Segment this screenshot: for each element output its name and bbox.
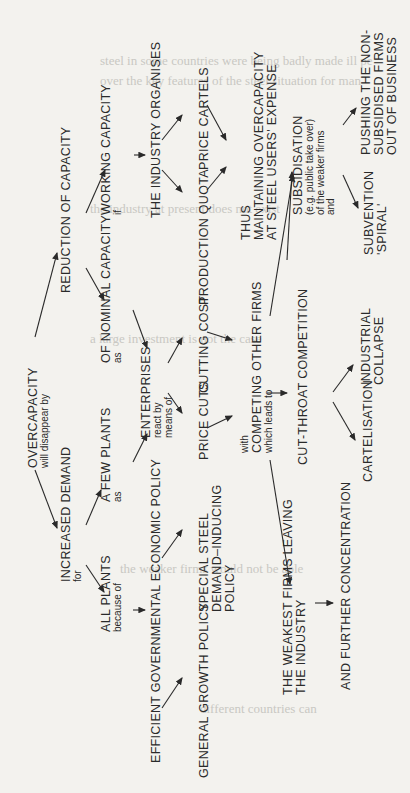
arrow-icon [207, 105, 226, 140]
arrow-icon [168, 338, 182, 363]
arrow-icon [35, 470, 57, 528]
arrow-icon [168, 393, 182, 413]
diagram-page: steel in some countries were being badly… [0, 0, 410, 793]
arrow-icon [86, 268, 104, 300]
arrow-icon [162, 115, 182, 140]
arrow-icon [133, 310, 147, 348]
arrow-icon [270, 175, 293, 316]
arrow-icon [86, 170, 105, 213]
arrow-icon [86, 565, 104, 592]
arrow-icon [162, 170, 182, 192]
arrow-icon [207, 416, 232, 428]
arrow-icon [343, 108, 356, 125]
arrow-icon [162, 530, 182, 558]
arrow-icon [86, 490, 101, 525]
arrow-icon [162, 678, 182, 708]
arrow-icon [270, 460, 290, 584]
arrow-icon [207, 167, 226, 190]
arrow-icon [207, 332, 232, 340]
arrow-icon [133, 434, 147, 462]
arrow-icon [35, 253, 57, 337]
arrow-icon [333, 402, 355, 440]
arrow-layer [0, 0, 410, 793]
arrow-icon [333, 365, 353, 392]
arrow-icon [343, 175, 358, 208]
arrow-icon [287, 172, 292, 260]
